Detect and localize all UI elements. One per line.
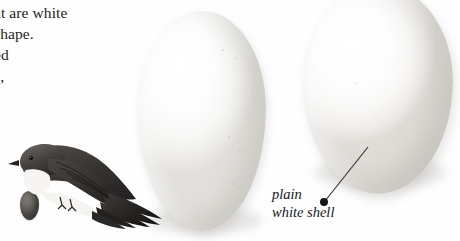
shell-fleck: [232, 183, 234, 185]
book-page-scan: at are white shape. ed s,: [0, 0, 460, 241]
body-text-line: at are white: [0, 2, 130, 23]
swallow-illustration: [4, 135, 164, 235]
shell-fleck: [228, 136, 230, 138]
body-text-block: at are white shape. ed s,: [0, 2, 130, 87]
shell-fleck: [235, 57, 237, 59]
body-text-line: s,: [0, 66, 130, 87]
shell-fleck: [239, 150, 241, 152]
caption-line-2: white shell: [272, 204, 334, 222]
shell-fleck: [355, 82, 357, 84]
shell-fleck: [222, 49, 224, 51]
bird-eye: [29, 156, 33, 160]
bird-throat-patch: [24, 169, 51, 194]
bird-eye-highlight: [30, 157, 31, 158]
body-text-line: shape.: [0, 23, 130, 44]
caption-line-1: plain: [272, 186, 334, 204]
shell-fleck: [415, 54, 417, 56]
caption-plain-white-shell: plain white shell: [272, 186, 334, 221]
shell-fleck: [243, 199, 245, 201]
bird-bill: [8, 160, 19, 166]
body-text-line: ed: [0, 44, 130, 65]
